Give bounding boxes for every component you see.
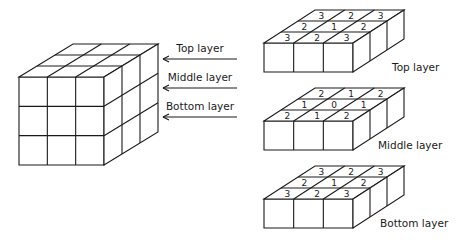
cell-count: 3	[284, 33, 290, 43]
arrow-top-layer: Top layer	[163, 42, 237, 62]
diagram-canvas: Top layer Middle layer Bottom layer 3232…	[0, 0, 456, 243]
cell-count: 1	[361, 100, 367, 110]
cell-count: 3	[318, 167, 324, 177]
arrow-bottom-layer: Bottom layer	[163, 100, 237, 120]
layer-arrows: Top layer Middle layer Bottom layer	[163, 42, 237, 120]
slab-front-face	[264, 43, 353, 72]
cell-count: 2	[314, 33, 320, 43]
cell-count: 1	[331, 178, 337, 188]
cell-count: 2	[361, 22, 367, 32]
cell-count: 0	[331, 100, 337, 110]
arrow-label-middle: Middle layer	[168, 71, 233, 83]
cell-count: 2	[378, 89, 384, 99]
cell-count: 3	[344, 189, 350, 199]
cell-count: 1	[314, 111, 320, 121]
slab-front-face	[264, 121, 353, 150]
big-cube	[19, 44, 158, 165]
arrow-label-bottom: Bottom layer	[166, 100, 235, 112]
cell-count: 2	[348, 11, 354, 21]
slab-front-face	[264, 199, 353, 228]
slab-caption-top: Top layer	[391, 61, 440, 73]
cell-count: 2	[284, 111, 290, 121]
arrow-label-top: Top layer	[175, 42, 224, 54]
cell-count: 2	[314, 189, 320, 199]
cell-count: 3	[318, 11, 324, 21]
slab-top-layer: 323212323	[264, 10, 404, 72]
cell-count: 2	[301, 22, 307, 32]
cell-count: 3	[344, 33, 350, 43]
cell-count: 3	[378, 11, 384, 21]
cell-count: 2	[348, 167, 354, 177]
cell-count: 2	[318, 89, 324, 99]
slab-caption-middle: Middle layer	[378, 139, 443, 151]
slab-caption-bottom: Bottom layer	[380, 217, 449, 229]
cell-count: 1	[331, 22, 337, 32]
arrow-middle-layer: Middle layer	[163, 71, 237, 91]
cube-front-face	[19, 77, 104, 165]
cell-count: 3	[378, 167, 384, 177]
cell-count: 3	[284, 189, 290, 199]
cell-count: 1	[301, 100, 307, 110]
cell-count: 2	[301, 178, 307, 188]
cell-count: 2	[361, 178, 367, 188]
cell-count: 1	[348, 89, 354, 99]
cell-count: 2	[344, 111, 350, 121]
